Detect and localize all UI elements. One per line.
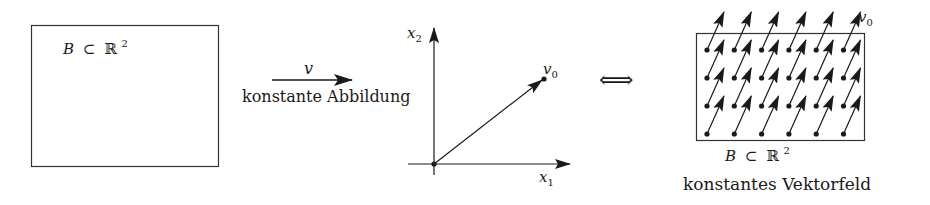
vector-field-panel: v0 B ⊂ ℝ 2 konstantes Vektorfeld [683,8,873,194]
field-point-dot [759,131,764,136]
field-point-dot [732,75,737,80]
field-point-dot [704,47,709,52]
field-point-dot [759,47,764,52]
field-point-dot [732,131,737,136]
equivalence-symbol: ⟺ [599,66,633,94]
field-point-dot [759,75,764,80]
field-caption: konstantes Vektorfeld [683,174,871,194]
field-point-dot [786,75,791,80]
domain-panel: B ⊂ ℝ 2 [32,26,219,167]
field-arrows [704,12,860,137]
field-point-dot [786,131,791,136]
field-point-dot [841,103,846,108]
field-point-dot [704,103,709,108]
mapping-caption: konstante Abbildung [242,87,410,106]
field-point-dot [841,47,846,52]
domain-label: B ⊂ ℝ 2 [62,38,128,58]
mapping-symbol: v [304,59,313,78]
diagram: B ⊂ ℝ 2 v konstante Abbildung x2 x1 v0 ⟺ [0,0,930,205]
field-point-dot [732,103,737,108]
field-v0-label: v0 [858,8,873,28]
vector-v0 [434,80,542,164]
y-axis-label: x2 [407,24,422,44]
mapping-arrow: v konstante Abbildung [242,59,410,106]
x-axis-label: x1 [539,168,554,188]
field-point-dot [786,47,791,52]
field-point-dot [814,131,819,136]
field-point-dot [732,47,737,52]
field-point-dot [814,75,819,80]
field-point-dot [814,47,819,52]
field-point-dot [814,103,819,108]
origin-dot [431,161,436,166]
field-domain-box [697,34,865,141]
field-point-dot [841,131,846,136]
field-point-dot [704,75,709,80]
vector-plot: x2 x1 v0 [407,24,570,188]
v0-label: v0 [543,60,558,80]
field-domain-label: B ⊂ ℝ 2 [724,145,790,165]
field-point-dot [786,103,791,108]
field-point-dot [759,103,764,108]
field-point-dot [841,75,846,80]
field-point-dot [704,131,709,136]
